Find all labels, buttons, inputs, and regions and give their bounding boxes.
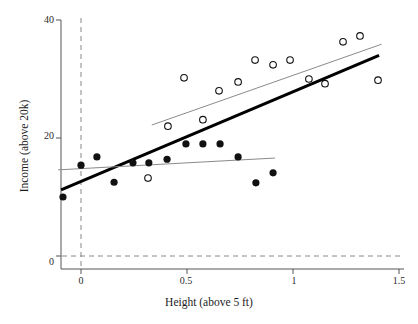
data-point-open: [252, 57, 259, 64]
data-point-filled: [145, 159, 152, 166]
data-point-filled: [216, 140, 223, 147]
data-point-open: [165, 123, 172, 130]
data-point-filled: [110, 179, 117, 186]
data-point-filled: [59, 193, 66, 200]
data-point-filled: [77, 162, 84, 169]
data-point-filled: [252, 179, 259, 186]
data-point-filled: [129, 159, 136, 166]
pooled-regression-line: [61, 55, 379, 190]
x-tick-label-1: 1: [274, 276, 314, 286]
x-axis-title: Height (above 5 ft): [0, 296, 418, 308]
reference-lines: [62, 18, 404, 266]
regression-lines: [58, 44, 382, 190]
data-point-open: [181, 75, 188, 82]
y-tick-label-0: 0: [28, 257, 54, 267]
data-point-filled: [234, 153, 241, 160]
data-point-open: [357, 33, 364, 40]
data-point-open: [340, 39, 347, 46]
tick-marks: [56, 20, 399, 274]
data-point-filled: [182, 140, 189, 147]
y-tick-label-20: 20: [28, 131, 54, 141]
data-point-filled: [199, 140, 206, 147]
data-point-open: [216, 88, 223, 95]
data-point-open: [306, 76, 313, 83]
x-tick-label-0: 0: [61, 276, 101, 286]
data-point-filled: [269, 169, 276, 176]
data-point-open: [270, 62, 277, 69]
data-point-open: [322, 80, 329, 87]
filled-point-series: [59, 140, 276, 200]
x-tick-label-1-5: 1.5: [379, 276, 418, 286]
data-point-open: [287, 57, 294, 64]
data-point-filled: [163, 156, 170, 163]
x-tick-label-0-5: 0.5: [166, 276, 206, 286]
data-point-filled: [93, 153, 100, 160]
open-group-regression-line: [152, 44, 382, 125]
y-tick-label-40: 40: [28, 15, 54, 25]
axis-lines: [61, 20, 404, 269]
data-point-open: [235, 79, 242, 86]
data-point-open: [375, 77, 382, 84]
y-axis-title: Income (above 20k): [18, 66, 30, 226]
data-point-open: [145, 175, 152, 182]
data-point-open: [200, 116, 207, 123]
scatter-plot-figure: 40 20 0 0 0.5 1 1.5 Height (above 5 ft) …: [0, 0, 418, 324]
